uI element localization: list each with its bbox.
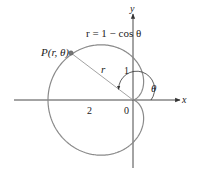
x-axis-label: x [181, 94, 187, 105]
angle-label: θ [151, 82, 157, 94]
tick-label-0: 0 [124, 105, 129, 116]
tick-label-2: 2 [87, 105, 92, 116]
radius-label: r [101, 63, 106, 75]
point-p [69, 51, 73, 55]
equation-label: r = 1 − cos θ [86, 27, 141, 39]
point-label: P(r, θ) [40, 46, 69, 59]
y-axis-label: y [129, 3, 135, 14]
cardioid-diagram: r = 1 − cos θ P(r, θ) r θ x y 2 0 1 [0, 0, 200, 172]
tick-label-1: 1 [124, 65, 129, 76]
